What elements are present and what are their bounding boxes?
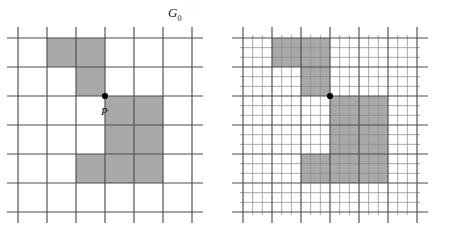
shaded-cell xyxy=(330,154,359,183)
shaded-cell xyxy=(134,125,163,154)
shaded-cell xyxy=(272,38,301,67)
marked-point-dot xyxy=(327,93,333,99)
thick-gridlines-group xyxy=(7,27,203,223)
shaded-cell xyxy=(301,154,330,183)
thick-gridlines-group xyxy=(232,27,428,223)
label-g-zero: G0 xyxy=(168,6,181,23)
marked-point-dot xyxy=(102,93,108,99)
shaded-cell xyxy=(301,38,330,67)
shaded-cell xyxy=(76,67,105,96)
shaded-cell xyxy=(105,96,134,125)
label-g-zero-subscript: 0 xyxy=(177,14,181,23)
panel-fine-grid: G xyxy=(225,0,449,226)
shaded-cell xyxy=(330,125,359,154)
figure-root: G0 P G xyxy=(0,0,449,226)
shaded-cell xyxy=(359,154,388,183)
shaded-cell xyxy=(134,154,163,183)
panel-coarse-grid: G0 P xyxy=(0,0,225,226)
shaded-cell xyxy=(359,125,388,154)
point-label-p: P xyxy=(101,106,108,117)
shaded-cell xyxy=(47,38,76,67)
shaded-cell xyxy=(105,154,134,183)
shaded-cell xyxy=(76,38,105,67)
fine-grid-svg xyxy=(225,0,449,226)
shaded-cell xyxy=(134,96,163,125)
shaded-cell xyxy=(330,96,359,125)
shaded-cell xyxy=(105,125,134,154)
shaded-cell xyxy=(301,67,330,96)
label-g-zero-letter: G xyxy=(168,5,177,20)
shaded-cell xyxy=(76,154,105,183)
coarse-grid-svg xyxy=(0,0,225,226)
shaded-cell xyxy=(359,96,388,125)
